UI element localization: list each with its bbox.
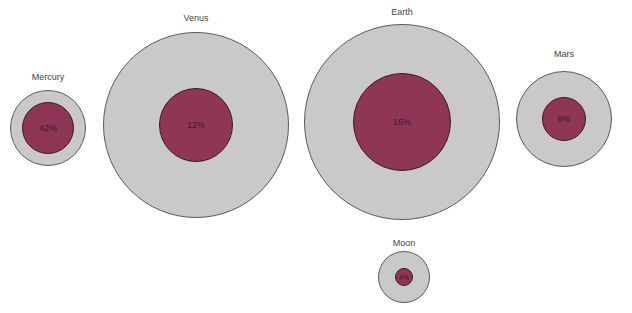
earth-inner-circle: 16% [353,73,451,171]
mercury-label: Mercury [8,72,88,82]
moon-percent: 4% [399,274,409,281]
mercury-percent: 42% [39,123,57,133]
moon-inner-circle: 4% [395,268,413,286]
mars-inner-circle: 9% [542,97,586,141]
mars-label: Mars [524,49,604,59]
venus-inner-circle: 12% [159,88,233,162]
earth-percent: 16% [393,117,411,127]
mercury-inner-circle: 42% [22,102,74,154]
moon-label: Moon [364,238,444,248]
venus-percent: 12% [187,120,205,130]
mars-percent: 9% [557,114,570,124]
earth-label: Earth [362,7,442,17]
venus-label: Venus [156,13,236,23]
